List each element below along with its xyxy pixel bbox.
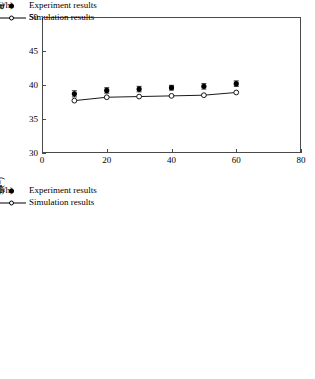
x-tick — [107, 149, 108, 153]
legend-item-simulation: Simulation results — [0, 197, 97, 208]
data-point-experiment — [72, 91, 77, 96]
x-tick-label: 20 — [102, 156, 111, 165]
y-tick — [42, 17, 46, 18]
chart-panel-j: Experiment results Simulation results φ(… — [0, 185, 315, 379]
y-tick — [42, 85, 46, 86]
y-tick-label: 30 — [0, 149, 38, 158]
chart-panel-i: Experiment results Simulation results t(… — [0, 0, 315, 190]
legend-j: Experiment results Simulation results — [0, 185, 97, 209]
data-point-experiment — [201, 84, 206, 89]
data-point-experiment — [169, 85, 174, 90]
y-tick — [42, 119, 46, 120]
legend-item-experiment: Experiment results — [0, 185, 97, 196]
panel-label-j: (j) — [0, 185, 4, 195]
x-tick — [301, 149, 302, 153]
data-point-simulation — [169, 93, 174, 98]
data-point-experiment — [137, 86, 142, 91]
x-tick-label: 40 — [167, 156, 176, 165]
data-point-simulation — [72, 98, 77, 103]
x-tick — [172, 149, 173, 153]
open-circle-line-icon — [0, 197, 26, 208]
data-point-experiment — [104, 88, 109, 93]
legend-label-experiment: Experiment results — [26, 185, 97, 196]
y-tick-label: 35 — [0, 115, 38, 124]
x-tick-label: 80 — [297, 156, 306, 165]
data-point-simulation — [104, 95, 109, 100]
legend-label-simulation: Simulation results — [26, 197, 94, 208]
legend-item-experiment: Experiment results — [0, 0, 97, 11]
simulation-line — [74, 92, 236, 100]
y-tick-label: 50 — [0, 13, 38, 22]
figure-container: Experiment results Simulation results t(… — [0, 0, 315, 379]
panel-label-i: (i) — [0, 0, 4, 10]
y-tick-label: 45 — [0, 47, 38, 56]
legend-label-experiment: Experiment results — [26, 0, 97, 11]
x-tick-label: 0 — [40, 156, 45, 165]
data-point-experiment — [234, 81, 239, 86]
y-tick — [42, 153, 46, 154]
y-tick-label: 40 — [0, 81, 38, 90]
data-point-simulation — [234, 90, 239, 95]
y-tick — [42, 51, 46, 52]
data-point-simulation — [201, 93, 206, 98]
x-tick-label: 60 — [232, 156, 241, 165]
plot-data-layer-j — [0, 185, 315, 379]
plot-data-layer-i — [0, 0, 315, 190]
x-tick — [236, 149, 237, 153]
data-point-simulation — [137, 94, 142, 99]
